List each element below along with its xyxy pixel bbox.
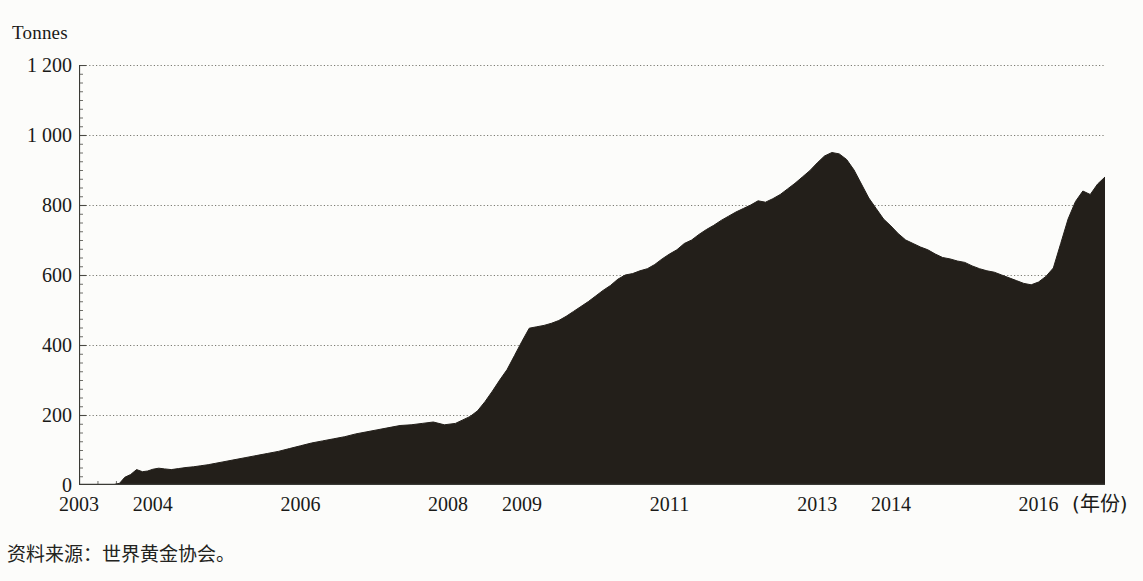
y-tick-label: 800	[2, 195, 72, 215]
y-tick-label: 600	[2, 265, 72, 285]
x-tick-label: 2003	[59, 494, 99, 514]
chart-figure: Tonnes 02004006008001 0001 200 200320042…	[0, 0, 1143, 581]
source-note: 资料来源：世界黄金协会。	[7, 545, 235, 564]
x-tick-label: 2013	[797, 494, 837, 514]
area-chart-svg	[79, 65, 1105, 485]
x-tick-label: 2016	[1019, 494, 1059, 514]
y-tick-label: 200	[2, 405, 72, 425]
x-tick-label: 2014	[871, 494, 911, 514]
y-tick-label: 1 000	[2, 125, 72, 145]
x-tick-label: 2009	[502, 494, 542, 514]
y-tick-label: 1 200	[2, 55, 72, 75]
y-tick-label: 0	[2, 475, 72, 495]
data-area-series	[79, 153, 1105, 486]
x-tick-label: 2006	[280, 494, 320, 514]
x-tick-label: 2011	[650, 494, 689, 514]
x-axis-unit-label: (年份)	[1072, 494, 1128, 514]
x-axis-tick-labels: 200320042006200820092011201320142016	[0, 494, 1143, 528]
plot-area	[79, 65, 1105, 485]
x-tick-label: 2008	[428, 494, 468, 514]
y-tick-label: 400	[2, 335, 72, 355]
x-tick-label: 2004	[133, 494, 173, 514]
